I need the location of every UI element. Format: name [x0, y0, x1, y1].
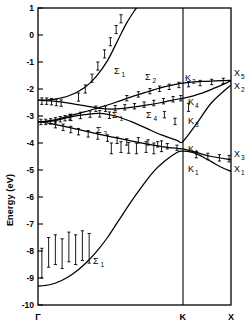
- band-label-subscript: 3: [195, 121, 199, 128]
- data-point-errorbar: [173, 118, 176, 124]
- band-label-subscript: 2: [241, 86, 245, 93]
- band-curves: [38, 3, 231, 287]
- band-label-k-3: K3: [188, 116, 199, 128]
- y-tick-label: -9: [26, 273, 34, 283]
- data-point-errorbar: [55, 99, 58, 105]
- data-point-errorbar: [67, 232, 70, 262]
- x-axis-ticks: ΓKX: [35, 312, 234, 322]
- y-tick-label: -4: [26, 138, 34, 148]
- y-tick-label: -10: [22, 300, 35, 310]
- band-label-symbol: X: [234, 68, 240, 78]
- band-label-subscript: 2: [192, 78, 196, 85]
- band-label-subscript: 3: [241, 154, 245, 161]
- y-tick-label: 0: [29, 30, 34, 40]
- band-label-symbol: Σ: [96, 125, 102, 135]
- band-label-subscript: 1: [101, 261, 105, 268]
- band-label-k-4: K4: [188, 97, 199, 109]
- data-point-errorbar: [119, 142, 122, 153]
- band-label-symbol: Σ: [145, 72, 151, 82]
- band-label-symbol: Σ: [93, 256, 99, 266]
- band-label-subscript: 1: [120, 115, 124, 122]
- band-label-x-3: X3: [234, 149, 245, 161]
- band-label-symbol: X: [234, 149, 240, 159]
- band-label-symbol: X: [234, 164, 240, 174]
- band-label-symbol: K: [188, 97, 194, 107]
- y-axis-ticks: 10-1-2-3-4-5-6-7-8-9-10: [22, 3, 43, 310]
- band-label-symbol: K: [188, 116, 194, 126]
- data-point-errorbar: [61, 124, 64, 130]
- band-label-symbol: Σ: [112, 110, 118, 120]
- data-point-errorbar: [77, 93, 80, 101]
- band-label-k-2: K2: [185, 73, 196, 85]
- data-point-errorbar: [40, 248, 43, 278]
- y-tick-label: -2: [26, 84, 34, 94]
- band-structure-figure: Energy (eV) 10-1-2-3-4-5-6-7-8-9-10 ΓKX …: [0, 0, 252, 330]
- data-point-errorbar: [96, 62, 99, 70]
- data-point-errorbar: [119, 15, 122, 23]
- y-tick-label: -1: [26, 57, 34, 67]
- band-curve: [38, 151, 231, 286]
- data-point-errorbar: [61, 239, 64, 269]
- y-tick-label: -5: [26, 165, 34, 175]
- y-tick-label: -6: [26, 192, 34, 202]
- band-label-subscript: 4: [154, 115, 158, 122]
- data-point-errorbar: [47, 238, 50, 268]
- band-label-subscript: 1: [122, 71, 126, 78]
- band-label-k-1-lower: K1: [188, 164, 199, 176]
- band-label-subscript: 1: [195, 149, 199, 156]
- band-label-sigma-4: Σ4: [146, 110, 158, 122]
- data-point-errorbar: [110, 143, 113, 154]
- band-label-subscript: 2: [153, 77, 157, 84]
- data-point-errorbar: [74, 235, 77, 265]
- band-label-x-5: X5: [234, 68, 245, 80]
- band-label-subscript: 5: [241, 73, 245, 80]
- data-point-errorbar: [135, 143, 138, 154]
- x-tick-label: K: [180, 312, 187, 322]
- band-label-symbol: Σ: [114, 66, 120, 76]
- band-label-x-1: X1: [234, 164, 245, 176]
- data-point-errorbar: [152, 100, 155, 105]
- y-tick-label: -7: [26, 219, 34, 229]
- band-label-k-1-upper: K1: [188, 144, 199, 156]
- band-label-sigma-1-upper: Σ1: [114, 66, 126, 78]
- band-curve: [38, 121, 231, 159]
- band-label-sigma-2: Σ2: [145, 72, 157, 84]
- experimental-data-points: [39, 15, 230, 278]
- data-point-errorbar: [163, 111, 166, 117]
- x-tick-label: X: [228, 312, 234, 322]
- y-tick-label: -3: [26, 111, 34, 121]
- data-point-errorbar: [127, 142, 130, 153]
- band-curve: [38, 3, 140, 101]
- data-point-errorbar: [162, 98, 165, 103]
- band-label-subscript: 1: [241, 169, 245, 176]
- band-label-sigma-1-lower: Σ1: [93, 256, 105, 268]
- data-point-errorbar: [81, 231, 84, 261]
- y-tick-label: -8: [26, 246, 34, 256]
- data-point-errorbar: [210, 79, 213, 84]
- y-tick-label: 1: [29, 3, 34, 13]
- y-axis-title-group: Energy (eV): [5, 174, 15, 226]
- band-label-subscript: 3: [104, 130, 108, 137]
- data-point-errorbar: [109, 38, 112, 46]
- data-point-errorbar: [60, 100, 63, 106]
- band-label-symbol: K: [185, 73, 191, 83]
- data-point-errorbar: [115, 26, 118, 34]
- band-label-symbol: Σ: [146, 110, 152, 120]
- band-label-symbol: K: [188, 144, 194, 154]
- band-label-subscript: 4: [195, 102, 199, 109]
- band-label-x-2: X2: [234, 81, 245, 93]
- band-label-symbol: X: [234, 81, 240, 91]
- x-tick-label: Γ: [35, 312, 41, 322]
- data-point-errorbar: [143, 102, 146, 107]
- data-point-errorbar: [103, 50, 106, 58]
- band-label-subscript: 1: [195, 169, 199, 176]
- data-point-errorbar: [90, 74, 93, 82]
- band-structure-plot: Energy (eV) 10-1-2-3-4-5-6-7-8-9-10 ΓKX …: [0, 0, 252, 330]
- data-point-errorbar: [54, 235, 57, 265]
- data-point-errorbar: [166, 144, 169, 149]
- band-label-symbol: K: [188, 164, 194, 174]
- y-axis-title: Energy (eV): [5, 174, 15, 226]
